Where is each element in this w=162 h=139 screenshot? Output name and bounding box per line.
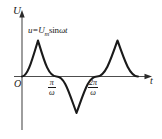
tick-2-denominator: ω	[88, 88, 98, 97]
equation-omega-t: ωt	[59, 25, 67, 35]
x-axis-label: t	[150, 76, 153, 86]
tick-2-numerator: 2π	[88, 78, 98, 88]
origin-label: O	[14, 79, 21, 89]
equation-lhs: u=U	[28, 25, 44, 35]
y-axis-group	[19, 10, 24, 130]
equation-annotation: u=Umsinωt	[28, 26, 67, 37]
tick-1-denominator: ω	[48, 88, 56, 97]
sine-wave-figure: U t O u=Umsinωt π ω 2π ω	[0, 0, 162, 139]
x-axis-group	[14, 74, 152, 79]
tick-1-numerator: π	[48, 78, 56, 88]
plot-canvas	[0, 0, 162, 139]
x-tick-label-pi-over-omega: π ω	[48, 78, 56, 97]
equation-function: sin	[49, 25, 59, 35]
y-axis-label: U	[13, 5, 21, 16]
x-tick-label-two-pi-over-omega: 2π ω	[88, 78, 98, 97]
